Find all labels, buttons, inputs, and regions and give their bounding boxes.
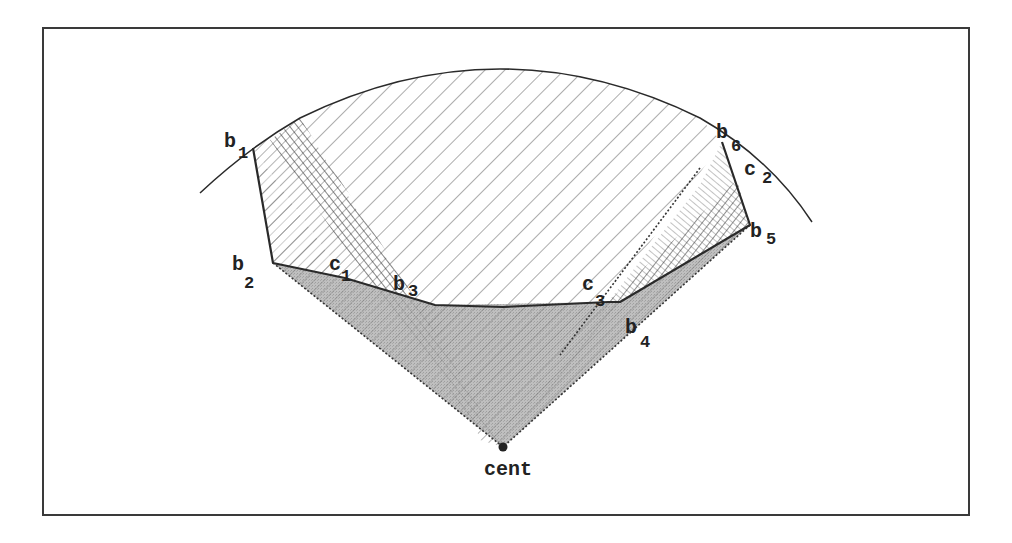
svg-text:1: 1 <box>238 144 248 163</box>
label-cent: cent <box>484 458 532 481</box>
svg-text:b: b <box>232 253 244 276</box>
svg-text:6: 6 <box>731 137 741 156</box>
svg-text:b: b <box>393 273 405 296</box>
svg-text:4: 4 <box>640 333 650 352</box>
svg-text:b: b <box>224 130 236 153</box>
label-c2: c 2 <box>744 158 772 188</box>
svg-text:3: 3 <box>595 292 605 311</box>
svg-text:b: b <box>750 220 762 243</box>
svg-text:3: 3 <box>408 282 418 301</box>
svg-text:b: b <box>625 316 637 339</box>
svg-text:2: 2 <box>244 274 254 293</box>
svg-text:5: 5 <box>766 230 776 249</box>
svg-text:c: c <box>329 253 341 276</box>
label-b5: b 5 <box>750 220 776 249</box>
label-b1: b 1 <box>224 130 248 163</box>
svg-text:1: 1 <box>341 267 351 286</box>
sector-diagram: b 1 b 2 c 1 b 3 c 3 b 4 b 5 b 6 c 2 cent <box>0 0 1012 543</box>
label-b2: b 2 <box>232 253 254 293</box>
svg-text:c: c <box>744 158 756 181</box>
center-point <box>499 443 508 452</box>
svg-text:c: c <box>582 273 594 296</box>
svg-text:b: b <box>716 121 728 144</box>
svg-text:2: 2 <box>762 169 772 188</box>
